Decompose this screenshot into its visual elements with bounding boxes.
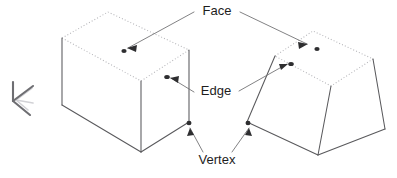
triad-y-axis [13, 86, 33, 101]
leader-face-to-frustum [240, 12, 307, 44]
solid-box [62, 12, 189, 152]
marker-frustum-edge [288, 62, 294, 66]
label-face: Face [203, 3, 232, 18]
marker-box-face [121, 49, 126, 53]
label-vertex: Vertex [199, 152, 236, 167]
marker-box-vertex [187, 121, 192, 126]
diagram-canvas: Face Edge Vertex [0, 0, 397, 178]
marker-frustum-vertex [246, 121, 251, 126]
label-edge: Edge [201, 83, 231, 98]
triad-x-axis [13, 101, 30, 115]
arrowhead-vertex-box [187, 128, 194, 136]
axis-triad-icon [13, 82, 33, 115]
diagram-svg: Face Edge Vertex [0, 0, 397, 178]
leader-vertex-to-frustum [232, 128, 249, 152]
marker-box-edge [164, 75, 170, 79]
marker-frustum-face [314, 47, 319, 51]
